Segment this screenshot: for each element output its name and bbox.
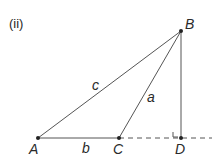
right-angle-marker: [173, 132, 178, 137]
point-a: [36, 136, 40, 140]
diagram-canvas: (ii) A C B D c a b: [0, 0, 222, 162]
side-c-line: [38, 31, 181, 138]
label-side-b: b: [82, 140, 90, 156]
label-a-vertex: A: [28, 141, 38, 157]
figure-label: (ii): [9, 16, 23, 31]
point-d: [179, 136, 183, 140]
triangle-diagram: (ii) A C B D c a b: [0, 0, 222, 162]
label-side-a: a: [147, 89, 155, 105]
point-c: [117, 136, 121, 140]
label-side-c: c: [92, 77, 99, 93]
side-a-line: [119, 31, 181, 138]
label-d-vertex: D: [175, 141, 185, 157]
point-b: [179, 29, 183, 33]
label-b-vertex: B: [185, 16, 194, 32]
label-c-vertex: C: [113, 141, 124, 157]
